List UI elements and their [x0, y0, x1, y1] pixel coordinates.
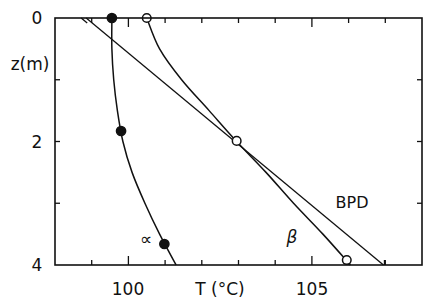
- x-tick-label-105: 105: [296, 279, 328, 299]
- y-tick-label-4: 4: [32, 255, 43, 275]
- temperature-depth-chart: z(m) 0 2 4 100 105 T (°C) ∝ β BPD: [0, 0, 429, 303]
- x-tick-label-100: 100: [112, 279, 144, 299]
- filled-circle-marker: [160, 239, 169, 248]
- y-tick-label-2: 2: [32, 132, 43, 152]
- series-label-bpd: BPD: [336, 193, 369, 212]
- filled-circle-marker: [116, 126, 125, 135]
- y-tick-label-0: 0: [32, 8, 43, 28]
- series-label-beta: β: [286, 227, 298, 247]
- series-label-alpha: ∝: [140, 229, 152, 249]
- x-axis-label: T (°C): [194, 279, 244, 299]
- open-circle-marker: [232, 137, 241, 146]
- y-axis-label: z(m): [11, 54, 50, 74]
- data-markers: [107, 13, 351, 264]
- open-circle-marker: [342, 256, 351, 265]
- curve-alpha: [112, 18, 176, 265]
- curve-beta: [147, 18, 351, 265]
